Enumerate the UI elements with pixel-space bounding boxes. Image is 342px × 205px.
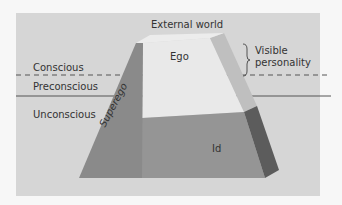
unconscious-label: Unconscious [33, 110, 96, 120]
external-world-label: External world [151, 20, 223, 30]
conscious-label: Conscious [33, 63, 84, 73]
preconscious-label: Preconscious [33, 82, 98, 92]
personality-structure-figure [0, 0, 342, 205]
visible-personality-brace [243, 44, 250, 76]
personality-label: personality [255, 58, 311, 68]
id-label: Id [212, 144, 221, 154]
id-region [142, 112, 265, 178]
ego-label: Ego [170, 52, 189, 62]
visible-label: Visible [255, 46, 288, 56]
